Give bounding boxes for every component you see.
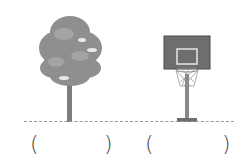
tree-icon [34,10,106,124]
answer-open-paren-1: ( [30,132,39,156]
ground-line [24,121,234,122]
answer-close-paren-2: ) [222,132,231,156]
answer-open-paren-2: ( [145,132,154,156]
basketball-hoop-icon [160,34,214,124]
answer-close-paren-1: ) [104,132,113,156]
